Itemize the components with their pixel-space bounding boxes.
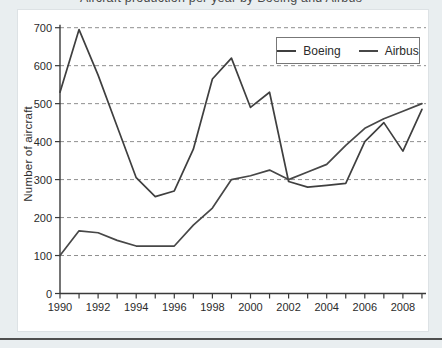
y-tick-label: 300	[34, 174, 52, 186]
x-tick-label: 1992	[86, 301, 110, 313]
cropped-title-text: Aircraft production per year by Boeing a…	[0, 0, 442, 5]
boeing-line-swatch	[277, 50, 296, 52]
y-tick-label: 100	[34, 250, 52, 262]
page: Aircraft production per year by Boeing a…	[0, 0, 442, 348]
x-tick-label: 1998	[200, 301, 224, 313]
cropped-title: Aircraft production per year by Boeing a…	[0, 0, 442, 5]
legend: Boeing Airbus	[276, 37, 420, 64]
x-tick-label: 2000	[238, 301, 262, 313]
y-tick-label: 200	[34, 212, 52, 224]
airbus-line-swatch	[359, 50, 378, 52]
x-tick-label: 2008	[391, 301, 415, 313]
legend-label-boeing: Boeing	[303, 44, 340, 58]
chart-card: 0100200300400500600700199019921994199619…	[17, 9, 429, 332]
x-tick-label: 1994	[124, 301, 148, 313]
y-tick-label: 700	[34, 22, 52, 34]
legend-item-boeing: Boeing	[277, 44, 340, 58]
x-tick-label: 2006	[353, 301, 377, 313]
legend-label-airbus: Airbus	[385, 44, 419, 58]
y-tick-label: 0	[46, 288, 52, 300]
airbus-line	[60, 104, 422, 256]
y-tick-label: 500	[34, 98, 52, 110]
legend-item-airbus: Airbus	[359, 44, 419, 58]
x-tick-label: 2004	[314, 301, 338, 313]
x-tick-label: 1990	[48, 301, 72, 313]
y-tick-label: 400	[34, 136, 52, 148]
x-tick-label: 2002	[276, 301, 300, 313]
y-tick-label: 600	[34, 60, 52, 72]
x-tick-label: 1996	[162, 301, 186, 313]
bottom-divider	[0, 338, 442, 340]
y-axis-title: Number of aircraft	[22, 106, 34, 202]
